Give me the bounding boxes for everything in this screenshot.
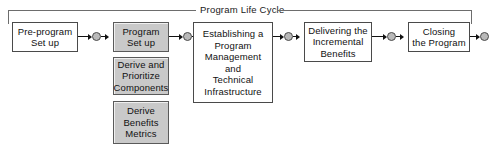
node-label-line: the Program — [412, 37, 465, 49]
node-label-line: Closing — [412, 26, 465, 38]
milestone-icon — [284, 32, 293, 41]
bracket-left-tick-icon — [8, 10, 9, 24]
milestone-icon — [183, 32, 192, 41]
milestone-end-icon — [480, 32, 489, 41]
node-label-line: and — [203, 63, 264, 75]
node-derive-benefits-metrics[interactable]: Derive Benefits Metrics — [113, 101, 169, 144]
milestone-icon — [92, 32, 101, 41]
node-delivering-the-incremental-benefits[interactable]: Delivering the Incremental Benefits — [304, 22, 372, 62]
node-label-line: Derive — [123, 105, 158, 117]
node-label-line: Program — [122, 26, 159, 38]
node-label-line: Program — [203, 40, 264, 52]
node-label-line: Prioritize — [114, 70, 169, 82]
node-derive-and-prioritize-components[interactable]: Derive and Prioritize Components — [113, 57, 169, 95]
arrowhead-icon — [105, 34, 109, 40]
milestone-icon — [387, 32, 396, 41]
bracket-right-segment-icon — [277, 10, 472, 11]
node-label-line: Delivering the — [308, 25, 368, 37]
program-life-cycle-diagram: Program Life Cycle Pre-program Set up Pr… — [0, 0, 495, 151]
node-label-line: Set up — [18, 37, 72, 49]
node-label-line: Technical — [203, 74, 264, 86]
node-label-line: Infrastructure — [203, 86, 264, 98]
connector-pre-program-to-program-set-up — [78, 30, 113, 43]
arrowhead-icon — [400, 34, 404, 40]
node-label-line: Set up — [122, 37, 159, 49]
connector-establishing-to-delivering — [273, 30, 305, 43]
bracket-left-segment-icon — [8, 10, 196, 11]
node-program-set-up[interactable]: Program Set up — [113, 22, 169, 52]
connector-line — [372, 36, 383, 37]
node-label-line: Incremental — [308, 36, 368, 48]
node-closing-the-program[interactable]: Closing the Program — [408, 22, 470, 52]
node-label-line: Management — [203, 51, 264, 63]
connector-line — [273, 36, 280, 37]
arrowhead-icon — [296, 34, 300, 40]
connector-line — [169, 36, 179, 37]
node-establishing-a-program-management-and-technical-infrastructure[interactable]: Establishing a Program Management and Te… — [193, 22, 273, 103]
node-label-line: Benefits — [123, 117, 158, 129]
bracket-label: Program Life Cycle — [200, 4, 284, 15]
connector-line — [78, 36, 88, 37]
node-label-line: Derive and — [114, 59, 169, 71]
node-label-line: Establishing a — [203, 28, 264, 40]
node-label-line: Pre-program — [18, 26, 72, 38]
node-label-line: Benefits — [308, 48, 368, 60]
connector-closing-to-end — [470, 30, 492, 43]
bracket-right-tick-icon — [471, 10, 472, 24]
node-label-line: Components — [114, 82, 169, 94]
node-pre-program-set-up[interactable]: Pre-program Set up — [12, 22, 78, 52]
node-label-line: Metrics — [123, 128, 158, 140]
connector-delivering-to-closing — [372, 30, 408, 43]
